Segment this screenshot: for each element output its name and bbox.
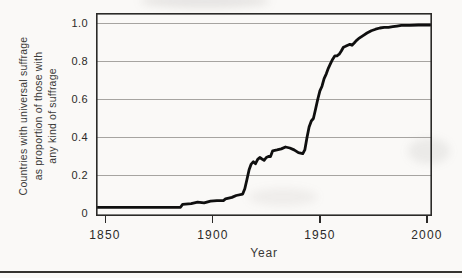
y-axis-title-line-1: Countries with universal suffrage <box>16 10 31 222</box>
x-tick-label-2000: 2000 <box>397 228 457 242</box>
y-tick-label-0.6: 0.6 <box>54 94 88 105</box>
y-tick-label-0.4: 0.4 <box>54 132 88 143</box>
y-tick-label-0: 0 <box>54 208 88 219</box>
x-tick-mark-1850 <box>105 216 107 223</box>
x-tick-label-1900: 1900 <box>183 228 243 242</box>
y-tick-label-0.2: 0.2 <box>54 170 88 181</box>
suffrage-line-chart <box>96 13 432 216</box>
y-tick-label-1.0: 1.0 <box>54 18 88 29</box>
x-axis-title: Year <box>214 246 314 260</box>
y-axis-title-line-3: any kind of suffrage <box>45 10 60 222</box>
y-axis-title-line-2: as proportion of those with <box>31 10 46 222</box>
page-rule <box>0 271 462 273</box>
x-tick-label-1850: 1850 <box>75 228 135 242</box>
series-line <box>96 25 430 207</box>
figure-page: Countries with universal suffrage as pro… <box>0 0 462 278</box>
x-tick-mark-1950 <box>319 216 321 223</box>
plot-frame <box>97 14 431 215</box>
scan-artifact <box>140 0 270 8</box>
x-tick-mark-1900 <box>212 216 214 223</box>
y-axis-title: Countries with universal suffrage as pro… <box>16 10 60 222</box>
x-tick-mark-2000 <box>426 216 428 223</box>
x-tick-label-1950: 1950 <box>290 228 350 242</box>
plot-area <box>96 13 432 216</box>
y-tick-label-0.8: 0.8 <box>54 56 88 67</box>
